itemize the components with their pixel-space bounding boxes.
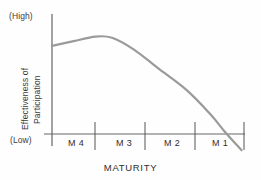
- y-axis-low-label: (Low): [10, 135, 32, 145]
- y-axis-high-label: (High): [9, 11, 33, 21]
- x-axis-tick-label-m4: M 4: [56, 138, 96, 148]
- y-axis-title-line-1: Effectiveness of: [20, 68, 30, 130]
- effectiveness-curve: [52, 36, 242, 150]
- x-axis-tick-label-m3: M 3: [104, 138, 144, 148]
- y-axis-title: Effectiveness of Participation: [8, 28, 42, 132]
- x-axis-title: MATURITY: [0, 162, 261, 173]
- x-axis-tick-label-m2: M 2: [152, 138, 192, 148]
- chart-figure: (High) (Low) Effectiveness of Participat…: [0, 0, 261, 180]
- x-axis-tick-label-m1: M 1: [200, 138, 240, 148]
- y-axis-title-line-2: Participation: [32, 75, 42, 124]
